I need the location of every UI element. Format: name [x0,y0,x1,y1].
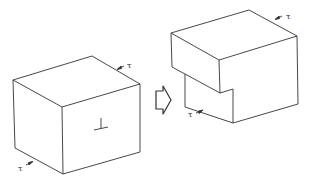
stress-arrow-bottom-right: τ [188,110,203,119]
stress-arrow-top-right: τ [275,12,291,21]
right-crystal-block [171,10,298,123]
left-crystal-block [13,56,140,174]
stress-arrow-bottom-left: τ [18,162,33,174]
stress-arrow-top-left: τ [117,61,132,70]
stress-label: τ [18,164,23,173]
stress-label: τ [127,61,132,70]
hollow-right-arrow-icon [156,86,171,114]
stress-label: τ [188,110,193,119]
dislocation-diagram: τ τ τ τ [0,0,314,184]
edge-dislocation-icon [94,118,108,130]
stress-label: τ [286,12,291,21]
